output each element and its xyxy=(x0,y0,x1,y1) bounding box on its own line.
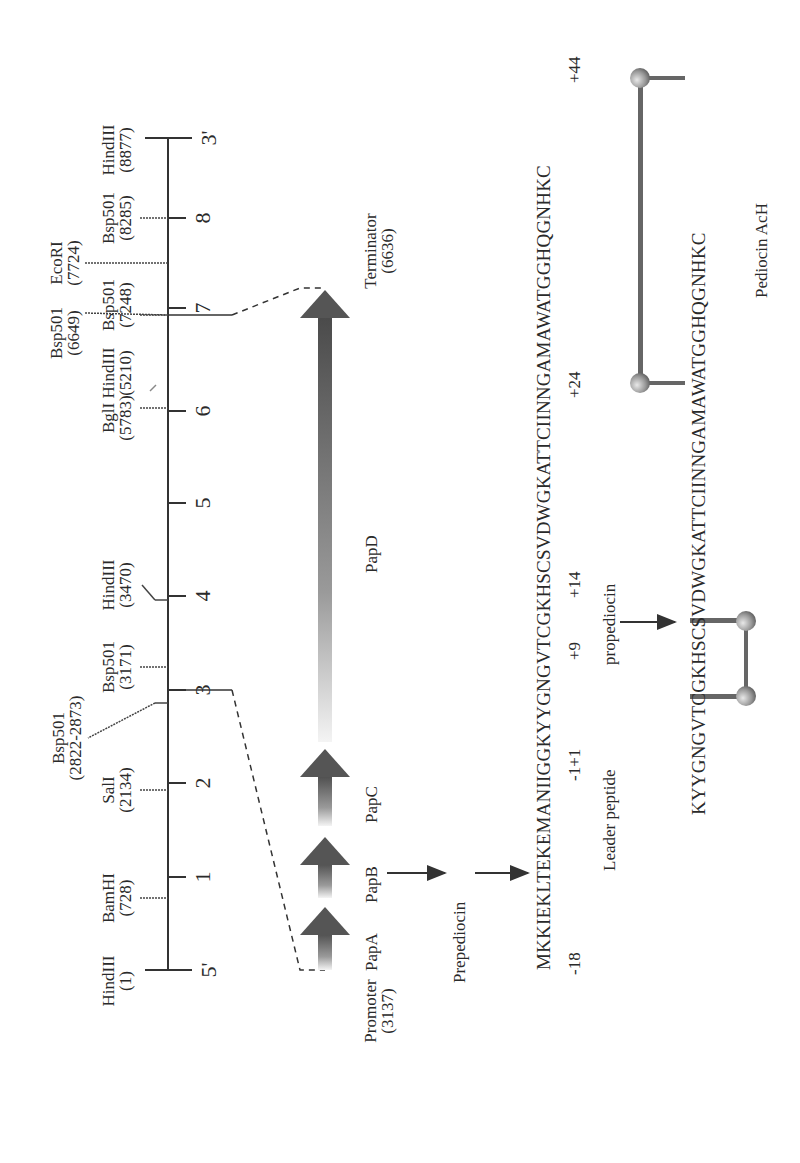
gene-label-papB: PapB xyxy=(362,866,382,903)
site-bsp501-8285: Bsp501(8285) xyxy=(100,192,134,244)
pediocin-sequence-2: CIINNGAMAWATGGHQGNHKC xyxy=(688,232,709,507)
scale-tick-5: 5 xyxy=(190,498,216,509)
promoter-label: Promoter(3137) xyxy=(362,979,396,1042)
terminator-label: Terminator(6636) xyxy=(362,213,396,288)
position-plus-9: +9 xyxy=(565,642,585,660)
pediocin-sequence-1: KYYGNGVTCGKHSCSVDWGKATT xyxy=(688,507,709,815)
pediocin-sequence: KYYGNGVTCGKHSCSVDWGKATTCIINNGAMAWATGGHQG… xyxy=(688,232,710,815)
site-hindiii-8877: HindIII(8877) xyxy=(100,125,134,176)
prepediocin-label: Prepediocin xyxy=(450,902,470,983)
site-bsp501-3171: Bsp501(3171) xyxy=(100,641,134,693)
mature-sequence-1: KYYGNGVTCGKHSCSVDWGKATT xyxy=(533,440,554,748)
leader-sequence: MKKIEKLTEKEMANIIGG xyxy=(533,748,554,970)
site-bsp501-2822: Bsp501(2822-2873) xyxy=(50,696,84,781)
precursor-sequence: MKKIEKLTEKEMANIIGGKYYGNGVTCGKHSCSVDWGKAT… xyxy=(533,165,555,970)
operon-bracket xyxy=(168,288,325,970)
site-bamhi: BamHI(728) xyxy=(100,873,134,923)
scale-tick-2: 2 xyxy=(190,778,216,789)
site-bgli: BglI(5783) xyxy=(100,395,134,440)
scale-tick-4: 4 xyxy=(190,591,216,602)
site-bsp501-6649: Bsp501(6649) xyxy=(48,307,82,359)
scale-tick-6: 6 xyxy=(190,406,216,417)
position-plus-14: +14 xyxy=(565,571,585,598)
processing-arrows xyxy=(387,622,675,873)
scale-tick-8: 8 xyxy=(190,213,216,224)
disulfide-bond-2 xyxy=(630,68,685,393)
site-sali: SalI(2134) xyxy=(100,767,134,812)
position-minus1-plus1: -1+1 xyxy=(565,749,585,781)
papD-arrow xyxy=(300,290,350,742)
three-prime-label: 3' xyxy=(196,131,222,146)
gene-arrows xyxy=(300,290,350,970)
mature-sequence-2: CIINNGAMAWATGGHQGNHKC xyxy=(533,165,554,440)
position-plus-24: +24 xyxy=(565,371,585,398)
papB-arrow xyxy=(300,837,350,898)
papC-arrow xyxy=(300,749,350,826)
five-prime-label: 5' xyxy=(196,963,222,978)
gene-label-papA: PapA xyxy=(362,933,382,971)
site-ecori: EcoRI(7724) xyxy=(48,240,82,285)
site-bsp501-7248: Bsp501(7248) xyxy=(100,279,134,331)
site-hindiii-5210: HindIII(5210) xyxy=(100,348,134,399)
gene-label-papC: PapC xyxy=(362,786,382,823)
scale-tick-1: 1 xyxy=(190,872,216,883)
position-minus-18: -18 xyxy=(565,952,585,975)
site-hindiii-3470: HindIII(3470) xyxy=(100,560,134,611)
position-plus-44: +44 xyxy=(565,56,585,83)
scale-tick-7: 7 xyxy=(190,303,216,314)
pediocin-ach-label: Pediocin AcH xyxy=(752,203,772,298)
propediocin-label: propediocin xyxy=(600,584,620,665)
site-hindiii-1: HindIII(1) xyxy=(100,956,134,1007)
leader-peptide-label: Leader peptide xyxy=(600,770,620,871)
gene-label-papD: PapD xyxy=(362,535,382,573)
operon-diagram: 5' 3' 1 2 3 4 5 6 7 8 HindIII(1) BamHI(7… xyxy=(0,0,800,1163)
scale-tick-3: 3 xyxy=(190,685,216,696)
papA-arrow xyxy=(300,907,350,970)
